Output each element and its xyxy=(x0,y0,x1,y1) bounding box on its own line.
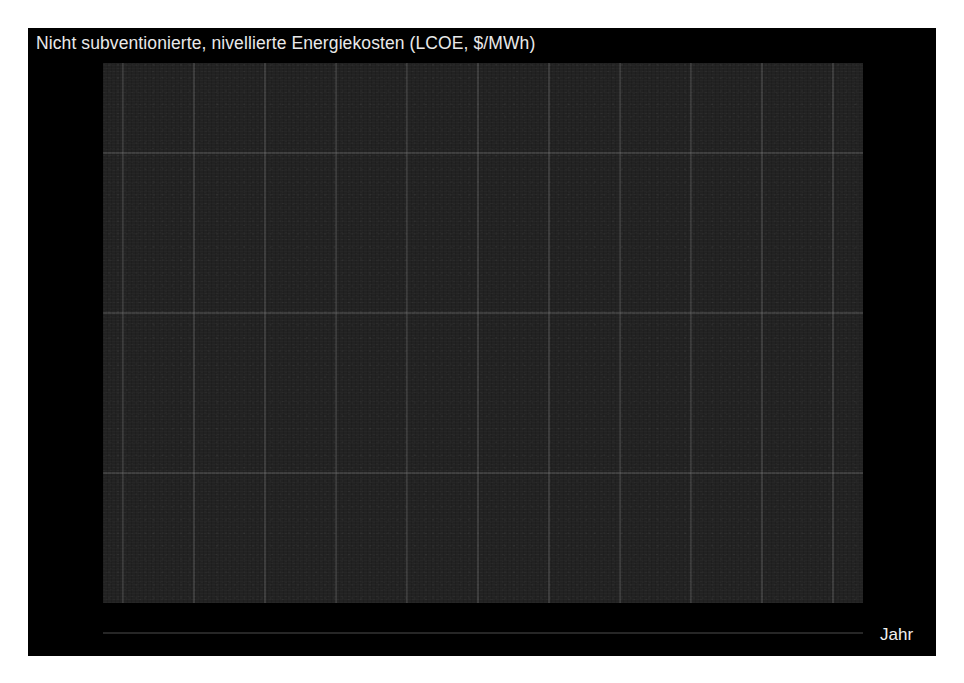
chart-canvas xyxy=(103,63,863,603)
plot-area xyxy=(103,63,863,603)
chart-title: Nicht subventionierte, nivellierte Energ… xyxy=(36,33,535,54)
x-axis-title: Jahr xyxy=(880,625,913,645)
chart-figure: Nicht subventionierte, nivellierte Energ… xyxy=(28,28,936,656)
chart-root: Nicht subventionierte, nivellierte Energ… xyxy=(0,0,964,683)
grid-lines xyxy=(103,63,863,633)
